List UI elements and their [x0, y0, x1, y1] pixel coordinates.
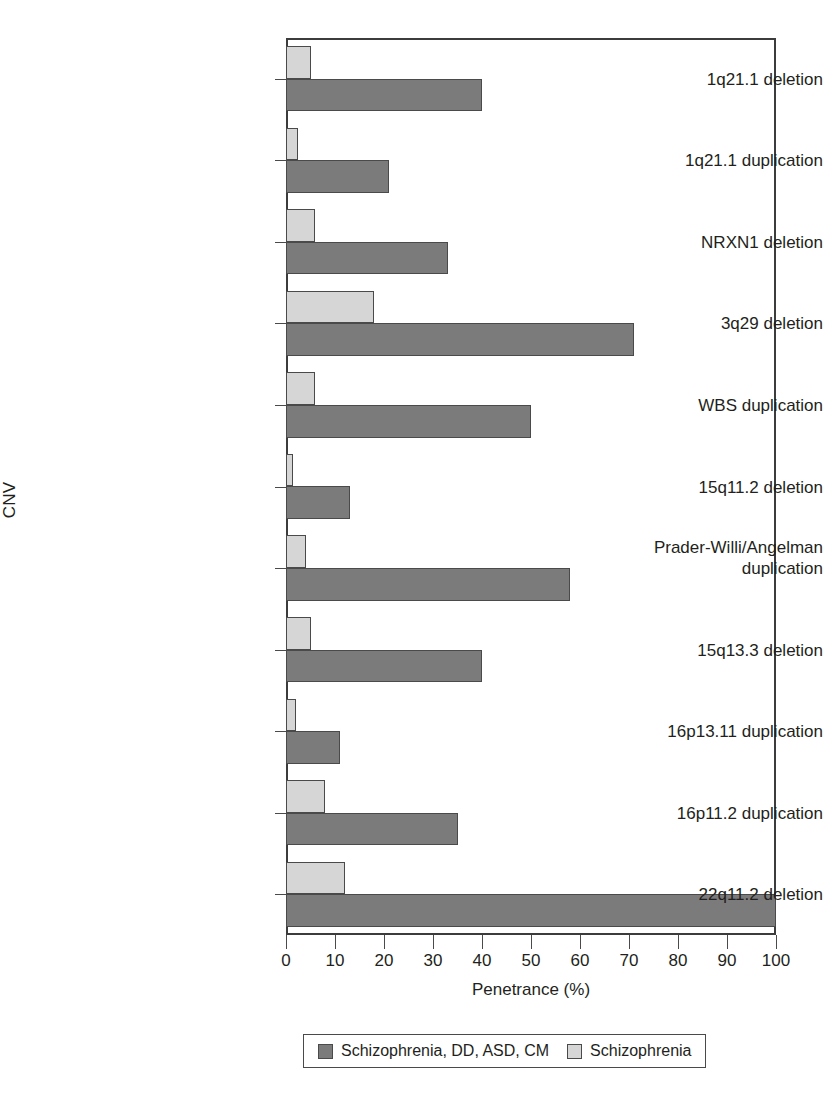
category-tick	[275, 487, 286, 488]
bar-schizophrenia-dd-asd-cm	[286, 405, 531, 438]
legend-swatch-icon	[318, 1044, 333, 1059]
legend-swatch-icon	[567, 1044, 582, 1059]
x-axis-tick-label: 0	[281, 951, 290, 971]
category-tick	[275, 568, 286, 569]
category-label: 16p13.11 duplication	[555, 721, 823, 742]
bar-schizophrenia	[286, 209, 315, 242]
x-axis-tick-label: 90	[718, 951, 737, 971]
bar-schizophrenia-dd-asd-cm	[286, 650, 482, 683]
x-axis-tick-label: 70	[620, 951, 639, 971]
category-label: 22q11.2 deletion	[555, 884, 823, 905]
x-axis-tick-label: 30	[424, 951, 443, 971]
category-label: 3q29 deletion	[555, 313, 823, 334]
category-tick	[275, 894, 286, 895]
category-tick	[275, 323, 286, 324]
bar-schizophrenia-dd-asd-cm	[286, 160, 389, 193]
x-axis-tick	[335, 935, 336, 949]
legend-entry: Schizophrenia, DD, ASD, CM	[318, 1042, 549, 1060]
x-axis-tick	[482, 935, 483, 949]
x-axis-tick-label: 80	[669, 951, 688, 971]
category-tick	[275, 405, 286, 406]
category-label: 1q21.1 duplication	[555, 150, 823, 171]
category-label: NRXN1 deletion	[555, 232, 823, 253]
x-axis-tick-label: 60	[571, 951, 590, 971]
bar-schizophrenia	[286, 372, 315, 405]
category-label: 1q21.1 deletion	[555, 69, 823, 90]
chart-legend: Schizophrenia, DD, ASD, CMSchizophrenia	[303, 1034, 706, 1068]
category-tick	[275, 242, 286, 243]
category-tick	[275, 731, 286, 732]
x-axis: 0102030405060708090100	[286, 935, 776, 936]
bar-schizophrenia-dd-asd-cm	[286, 568, 570, 601]
category-label: 16p11.2 duplication	[555, 803, 823, 824]
category-tick	[275, 650, 286, 651]
bar-schizophrenia	[286, 780, 325, 813]
y-axis-title: CNV	[0, 440, 20, 560]
x-axis-tick	[531, 935, 532, 949]
x-axis-title: Penetrance (%)	[286, 980, 776, 1000]
category-label: 15q11.2 deletion	[555, 477, 823, 498]
x-axis-tick	[678, 935, 679, 949]
bar-schizophrenia	[286, 454, 293, 487]
x-axis-tick	[384, 935, 385, 949]
bar-schizophrenia-dd-asd-cm	[286, 79, 482, 112]
bar-schizophrenia-dd-asd-cm	[286, 242, 448, 275]
category-tick	[275, 160, 286, 161]
legend-label: Schizophrenia	[590, 1042, 691, 1060]
bar-schizophrenia	[286, 699, 296, 732]
penetrance-bar-chart: CNV 1q21.1 deletion1q21.1 duplicationNRX…	[0, 0, 823, 1105]
bar-schizophrenia	[286, 291, 374, 324]
category-label: Prader-Willi/Angelman duplication	[555, 537, 823, 579]
bar-schizophrenia	[286, 862, 345, 895]
category-tick	[275, 79, 286, 80]
x-axis-tick-label: 10	[326, 951, 345, 971]
bar-schizophrenia-dd-asd-cm	[286, 813, 458, 846]
x-axis-tick	[727, 935, 728, 949]
x-axis-tick-label: 40	[473, 951, 492, 971]
figure-caption	[0, 1086, 823, 1105]
x-axis-tick	[433, 935, 434, 949]
bar-schizophrenia	[286, 46, 311, 79]
x-axis-tick-label: 100	[762, 951, 790, 971]
x-axis-tick	[580, 935, 581, 949]
x-axis-tick	[629, 935, 630, 949]
x-axis-tick	[286, 935, 287, 949]
legend-label: Schizophrenia, DD, ASD, CM	[341, 1042, 549, 1060]
x-axis-tick-label: 50	[522, 951, 541, 971]
bar-schizophrenia-dd-asd-cm	[286, 486, 350, 519]
bar-schizophrenia	[286, 617, 311, 650]
bar-schizophrenia	[286, 535, 306, 568]
category-label: 15q13.3 deletion	[555, 640, 823, 661]
bar-schizophrenia	[286, 128, 298, 161]
bar-schizophrenia-dd-asd-cm	[286, 731, 340, 764]
legend-entry: Schizophrenia	[567, 1042, 691, 1060]
category-label: WBS duplication	[555, 395, 823, 416]
x-axis-tick-label: 20	[375, 951, 394, 971]
category-tick	[275, 813, 286, 814]
x-axis-tick	[776, 935, 777, 949]
